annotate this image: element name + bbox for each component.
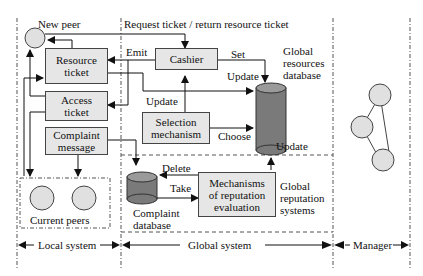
complaint-db-label: Complaint database	[133, 207, 179, 231]
cashier-box: Cashier	[155, 48, 218, 70]
selection-mechanism-box: Selectionmechanism	[142, 112, 210, 144]
global-system-label: Global system	[188, 239, 251, 251]
new-peer-label: New peer	[38, 18, 80, 30]
resource-ticket-box: Resourceticket	[45, 48, 108, 84]
local-system-label: Local system	[38, 239, 96, 251]
manager-label: Manager	[353, 239, 392, 251]
update-right-label: Update	[276, 140, 308, 152]
emit-label: Emit	[126, 46, 147, 58]
access-ticket-box: Accessticket	[45, 91, 108, 121]
take-label: Take	[170, 182, 191, 194]
new-peer-node	[25, 28, 45, 48]
delete-label: Delete	[162, 162, 191, 174]
current-peers-label: Current peers	[30, 214, 90, 226]
global-resources-db-label: Global resources database	[283, 45, 325, 81]
reputation-evaluation-box: Mechanismsof reputationevaluation	[198, 172, 276, 217]
request-ticket-label: Request ticket / return resource ticket	[124, 18, 289, 30]
complaint-db-icon	[127, 172, 157, 204]
update-top-label: Update	[227, 70, 259, 82]
complaint-message-box: Complaintmessage	[45, 127, 108, 155]
set-label: Set	[231, 48, 245, 60]
choose-label: Choose	[218, 130, 251, 142]
global-reputation-label: Global reputation systems	[280, 180, 325, 216]
update-left-label: Update	[146, 95, 178, 107]
